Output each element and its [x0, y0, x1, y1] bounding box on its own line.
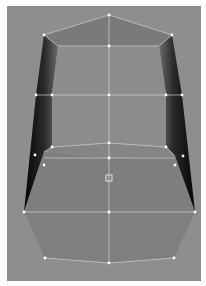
- vertex[interactable]: [108, 262, 111, 265]
- vertex[interactable]: [34, 154, 37, 157]
- vertex[interactable]: [165, 94, 168, 97]
- 3d-viewport[interactable]: [7, 6, 201, 281]
- vertex[interactable]: [181, 94, 184, 97]
- vertex[interactable]: [44, 257, 47, 260]
- vertex[interactable]: [51, 146, 54, 149]
- vertex[interactable]: [108, 94, 111, 97]
- mesh-canvas[interactable]: [7, 6, 201, 281]
- vertex[interactable]: [171, 34, 174, 37]
- vertex[interactable]: [173, 257, 176, 260]
- vertex[interactable]: [182, 155, 185, 158]
- vertex[interactable]: [108, 142, 111, 145]
- vertex[interactable]: [43, 164, 46, 167]
- vertex[interactable]: [108, 211, 111, 214]
- vertex[interactable]: [43, 34, 46, 37]
- vertex[interactable]: [108, 14, 111, 17]
- vertex[interactable]: [23, 211, 26, 214]
- vertex[interactable]: [194, 211, 197, 214]
- vertex[interactable]: [108, 157, 111, 160]
- mesh-bottom-face: [24, 212, 195, 263]
- vertex[interactable]: [51, 94, 54, 97]
- mesh-lower-face: [24, 152, 195, 212]
- vertex[interactable]: [174, 164, 177, 167]
- vertex[interactable]: [165, 146, 168, 149]
- vertex[interactable]: [108, 45, 111, 48]
- vertex[interactable]: [35, 94, 38, 97]
- mesh-top-face: [44, 15, 172, 46]
